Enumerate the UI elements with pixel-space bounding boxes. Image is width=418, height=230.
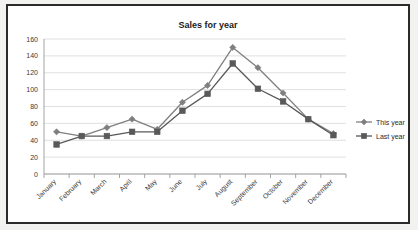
y-axis-tick-label: 0	[34, 171, 38, 178]
legend-entry-1[interactable]: This year	[356, 119, 405, 127]
data-point-marker	[129, 129, 135, 135]
chart-title: Sales for year	[178, 20, 238, 30]
y-axis-tick-label: 120	[26, 69, 38, 76]
data-point-marker	[180, 108, 186, 114]
chart-title-group: Sales for year	[178, 20, 238, 30]
data-point-marker	[104, 124, 110, 130]
x-axis-category-label: February	[58, 177, 84, 203]
series-line	[57, 63, 334, 144]
legend-entry-2[interactable]: Last year	[356, 133, 405, 141]
data-point-marker	[154, 129, 160, 135]
screenshot-root: Sales for year 020406080100120140160 Jan…	[0, 0, 418, 230]
x-axis-category-label: April	[118, 177, 134, 193]
y-axis-tick-label: 160	[26, 36, 38, 43]
data-point-marker	[79, 133, 85, 139]
series-line	[57, 47, 334, 136]
data-point-marker	[305, 116, 311, 122]
legend-label: This year	[376, 119, 405, 127]
data-point-marker	[331, 132, 337, 138]
y-axis-tick-labels: 020406080100120140160	[26, 36, 38, 178]
x-axis-category-label: October	[261, 177, 284, 200]
series-1	[53, 44, 336, 139]
x-axis-category-labels: JanuaryFebruaryMarchAprilMayJuneJulyAugu…	[35, 177, 335, 207]
y-axis-tick-label: 60	[30, 120, 38, 127]
data-series	[53, 44, 336, 147]
x-axis-category-label: August	[213, 178, 234, 199]
data-point-marker	[280, 99, 286, 105]
sales-line-chart: Sales for year 020406080100120140160 Jan…	[8, 6, 408, 222]
data-point-marker	[205, 91, 211, 97]
y-axis-tick-label: 80	[30, 103, 38, 110]
x-axis-category-label: November	[281, 177, 309, 205]
data-point-marker	[255, 86, 261, 92]
y-axis-tick-label: 140	[26, 52, 38, 59]
x-axis-category-label: March	[89, 178, 108, 197]
x-axis-category-label: January	[35, 177, 59, 201]
legend-marker	[361, 119, 367, 125]
y-axis-tick-label: 100	[26, 86, 38, 93]
data-point-marker	[53, 129, 59, 135]
data-point-marker	[129, 116, 135, 122]
data-point-marker	[104, 133, 110, 139]
x-axis-category-label: December	[306, 177, 334, 205]
x-axis-category-label: July	[195, 177, 210, 192]
data-point-marker	[54, 142, 60, 148]
gridlines	[44, 39, 346, 174]
chart-legend: This yearLast year	[356, 119, 405, 141]
legend-label: Last year	[376, 133, 405, 141]
legend-marker	[361, 133, 366, 138]
y-axis-tick-label: 40	[30, 137, 38, 144]
x-axis-category-label: June	[167, 178, 183, 194]
y-axis-tick-label: 20	[30, 154, 38, 161]
x-axis-category-label: September	[229, 177, 259, 207]
x-axis-category-label: May	[144, 177, 159, 192]
chart-frame: Sales for year 020406080100120140160 Jan…	[6, 4, 410, 224]
data-point-marker	[230, 61, 236, 67]
